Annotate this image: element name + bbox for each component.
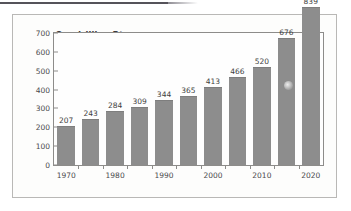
bar-value-label: 466 (230, 67, 244, 76)
bar-value-label: 520 (255, 57, 269, 66)
x-axis-tick-mark (274, 165, 275, 169)
bar-group: 676 (274, 33, 298, 165)
x-axis-tick-mark (127, 165, 128, 169)
bar-value-label: 344 (157, 90, 171, 99)
bar-group: 243 (78, 33, 102, 165)
x-axis-tick-label: 2000 (203, 171, 222, 180)
y-axis-tick-label: 600 (36, 47, 54, 56)
x-axis-tick-mark (225, 165, 226, 169)
x-axis-tick-label: 2010 (252, 171, 271, 180)
x-axis-tick-mark (299, 165, 300, 169)
x-axis-tick-mark (103, 165, 104, 169)
x-axis-tick-mark (152, 165, 153, 169)
bar-group: 466 (225, 33, 249, 165)
y-axis-tick-label: 100 (36, 142, 54, 151)
bar[interactable] (131, 107, 149, 165)
bar[interactable] (155, 100, 173, 165)
x-axis-tick-label: 1980 (106, 171, 125, 180)
bar-value-label: 413 (206, 77, 220, 86)
bar-group: 309 (127, 33, 151, 165)
page-top-rule (0, 2, 168, 4)
x-axis-tick-label: 1970 (57, 171, 76, 180)
bar[interactable] (82, 119, 100, 165)
y-axis-tick-label: 0 (45, 161, 54, 170)
bar-value-label: 207 (59, 116, 73, 125)
bar-value-label: 365 (181, 86, 195, 95)
bar-group: 365 (176, 33, 200, 165)
bar-value-label: 284 (108, 101, 122, 110)
bar-value-label: 243 (84, 109, 98, 118)
bar-value-label: 309 (132, 97, 146, 106)
y-axis-tick-label: 700 (36, 29, 54, 38)
bar-value-label: 676 (279, 28, 293, 37)
figure-frame: Quadrillion Btu 0100200300400500600700 2… (12, 14, 337, 198)
y-axis-tick-label: 500 (36, 66, 54, 75)
bar-group: 839 (299, 33, 323, 165)
bar[interactable] (204, 87, 222, 165)
bar-group: 413 (201, 33, 225, 165)
bar-group: 284 (103, 33, 127, 165)
y-axis-tick-label: 300 (36, 104, 54, 113)
bars-layer: 207243284309344365413466520676839 (54, 33, 323, 165)
bar[interactable] (278, 38, 296, 165)
bar[interactable] (180, 96, 198, 165)
x-axis-tick-mark (201, 165, 202, 169)
bar[interactable] (229, 77, 247, 165)
bar-group: 520 (250, 33, 274, 165)
plot-area: 0100200300400500600700 20724328430934436… (53, 32, 324, 166)
x-axis-tick-label: 1990 (154, 171, 173, 180)
bar[interactable] (57, 126, 75, 165)
bar-group: 344 (152, 33, 176, 165)
y-axis-tick-label: 200 (36, 123, 54, 132)
bar-group: 207 (54, 33, 78, 165)
bar[interactable] (302, 7, 320, 165)
bar[interactable] (106, 111, 124, 165)
page-top-rule-fade (168, 2, 198, 4)
x-axis-tick-mark (176, 165, 177, 169)
bar[interactable] (253, 67, 271, 165)
bar-chart: Quadrillion Btu 0100200300400500600700 2… (13, 15, 336, 197)
y-axis-tick-label: 400 (36, 85, 54, 94)
x-axis-tick-mark (78, 165, 79, 169)
bar-value-label: 839 (304, 0, 318, 6)
x-axis-tick-label: 2020 (301, 171, 320, 180)
x-axis-tick-mark (250, 165, 251, 169)
